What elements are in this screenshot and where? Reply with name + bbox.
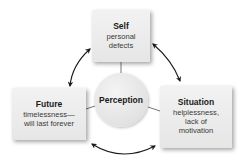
arrow-future-self [70, 49, 90, 86]
center-perception-circle: Perception [94, 73, 148, 127]
node-self-title: Self [92, 22, 150, 32]
connector-situation [148, 107, 160, 111]
arrow-situation-future [92, 144, 155, 154]
node-situation-desc-line2: lack of [160, 117, 232, 126]
node-future-desc-line1: timelessness— [12, 110, 86, 119]
node-self-desc-line1: personal [92, 32, 150, 41]
cognitive-triad-diagram: Self personal defects Future timelessnes… [0, 0, 242, 165]
node-situation-desc-line1: helplessness, [160, 108, 232, 117]
node-situation: Situation helplessness, lack of motivati… [160, 86, 232, 148]
node-future: Future timelessness— will last forever [12, 88, 86, 140]
node-self: Self personal defects [92, 10, 150, 62]
node-future-title: Future [12, 100, 86, 110]
node-self-desc-line2: defects [92, 41, 150, 50]
center-label: Perception [99, 95, 143, 105]
node-situation-title: Situation [160, 98, 232, 108]
arrow-self-situation [153, 44, 180, 81]
node-future-desc-line2: will last forever [12, 119, 86, 128]
node-situation-desc-line3: motivation [160, 126, 232, 135]
connector-future [86, 106, 95, 109]
